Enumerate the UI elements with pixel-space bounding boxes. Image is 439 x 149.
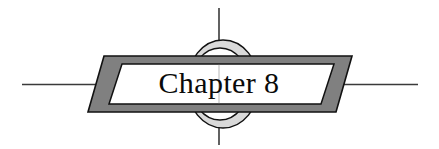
chapter-heading-ornament: Chapter 8 [0,0,439,149]
chapter-heading-artwork: Chapter 8 [0,0,439,149]
chapter-title: Chapter 8 [158,66,279,99]
